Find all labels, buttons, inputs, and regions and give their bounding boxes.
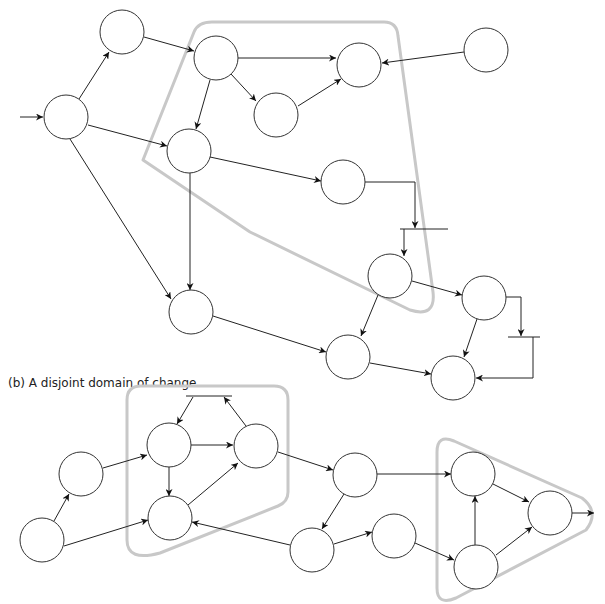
- edge-K-L: [213, 316, 326, 352]
- state-node-H: [368, 254, 412, 298]
- state-node-L: [326, 335, 370, 379]
- edge-B-D: [196, 80, 210, 129]
- state-node-b6: [333, 453, 377, 497]
- state-node-b10: [528, 491, 572, 535]
- state-node-J: [431, 356, 475, 400]
- edge-B-C: [231, 74, 256, 101]
- edge-b4-bar3: [224, 397, 246, 426]
- state-node-b11: [454, 545, 498, 589]
- state-node-b1: [20, 518, 64, 562]
- state-node-F: [464, 28, 508, 72]
- state-transition-diagram: [0, 0, 605, 604]
- state-node-A: [100, 10, 144, 54]
- state-node-b3: [147, 423, 191, 467]
- edge-b8-b11: [415, 543, 454, 560]
- edge-F-E: [382, 52, 464, 63]
- edge-b7-b8: [334, 532, 372, 544]
- edge-H-I: [412, 281, 462, 295]
- edge-H-L: [361, 295, 378, 336]
- state-node-b9: [451, 452, 495, 496]
- edge-D-G: [210, 157, 321, 181]
- edge-b1-b2: [54, 494, 69, 521]
- edge-L-J: [370, 363, 431, 374]
- state-node-I: [462, 276, 506, 320]
- edge-b1-b5: [64, 520, 148, 546]
- edge-b6-b7: [322, 494, 344, 529]
- edge-b4-b6: [278, 452, 333, 470]
- state-node-b4: [234, 424, 278, 468]
- edge-S-A: [79, 52, 109, 99]
- state-node-B: [194, 36, 238, 80]
- state-node-C: [254, 93, 298, 137]
- edge-A-B: [144, 37, 194, 51]
- state-node-b8: [372, 514, 416, 558]
- state-node-b2: [59, 452, 103, 496]
- edge-G-bar1: [365, 182, 415, 228]
- state-node-D: [167, 129, 211, 173]
- edge-b11-b10: [496, 527, 532, 555]
- edge-b5-b4: [188, 463, 238, 505]
- edge-C-E: [298, 79, 341, 106]
- state-node-K: [169, 290, 213, 334]
- edge-I-bar2: [506, 297, 521, 336]
- state-node-b7: [290, 528, 334, 572]
- edge-b9-b10: [493, 484, 529, 502]
- state-node-G: [321, 160, 365, 204]
- state-node-S: [44, 95, 88, 139]
- edge-S-K: [70, 139, 171, 299]
- edge-bar2-J: [476, 337, 533, 378]
- edge-I-J: [464, 319, 477, 357]
- state-node-E: [337, 43, 381, 87]
- edge-bar3-b3: [177, 397, 193, 424]
- edge-b2-b3: [103, 455, 147, 468]
- state-node-b5: [148, 496, 192, 540]
